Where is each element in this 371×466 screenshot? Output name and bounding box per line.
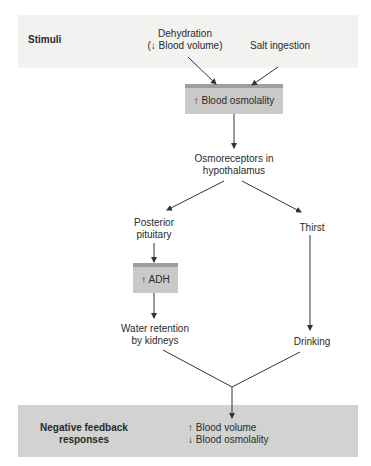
connector-arrows <box>0 0 371 466</box>
